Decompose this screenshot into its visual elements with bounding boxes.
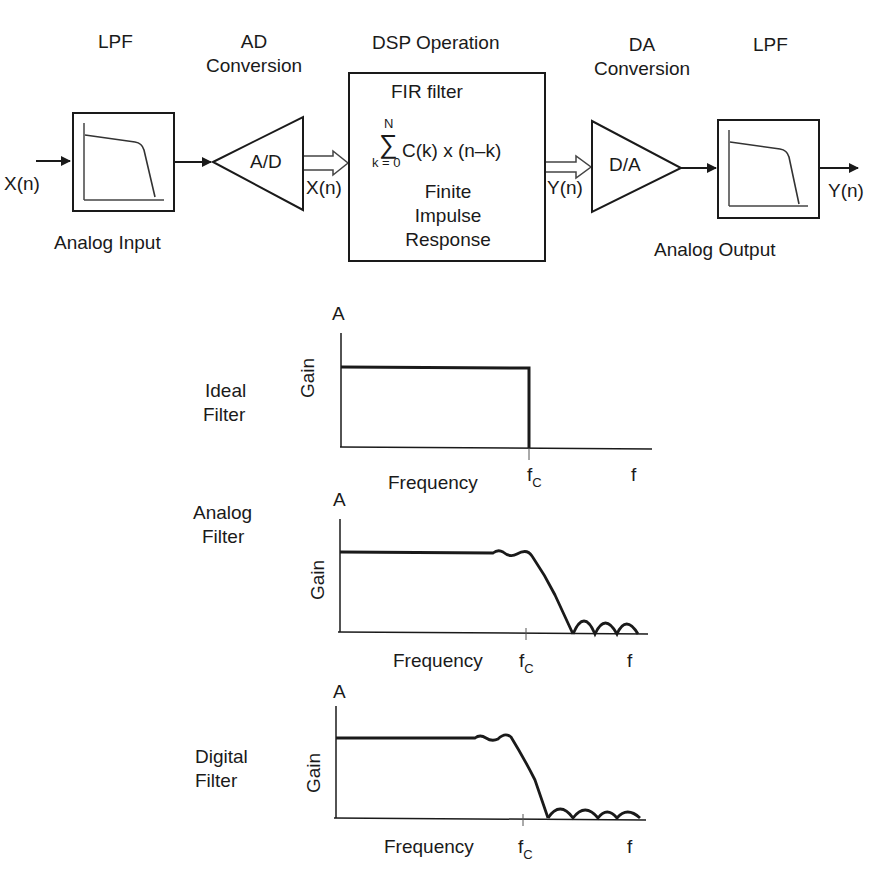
digital-fc-label: fC: [518, 836, 533, 858]
input-signal-label: X(n): [4, 173, 40, 195]
dsp-output-signal-label: Y(n): [547, 177, 583, 199]
analog-filter-chart: [338, 519, 648, 640]
output-signal-label: Y(n): [828, 180, 864, 202]
adc-block-label: A/D: [250, 151, 282, 173]
dsp-title: DSP Operation: [372, 32, 499, 54]
digital-filter-chart: [334, 706, 646, 826]
fir-desc-line1: Finite: [398, 181, 498, 203]
digital-y-axis-top: A: [333, 681, 346, 703]
analog-input-caption: Analog Input: [54, 232, 161, 254]
analog-y-axis-top: A: [333, 489, 346, 511]
ideal-gain-label: Gain: [297, 358, 319, 398]
adc-title-line1: AD: [204, 31, 304, 53]
digital-f-label: f: [627, 836, 632, 858]
digital-filter-label-line2: Filter: [195, 770, 237, 792]
ideal-filter-chart: [340, 333, 652, 460]
analog-filter-label-line2: Filter: [202, 526, 244, 548]
analog-output-caption: Analog Output: [654, 239, 775, 261]
diagram-graphics: [0, 0, 890, 882]
analog-f-label: f: [627, 650, 632, 672]
lpf-response-icon: [84, 123, 164, 200]
dac-block-label: D/A: [609, 154, 641, 176]
ideal-f-label: f: [631, 464, 636, 486]
lpf-output-title: LPF: [753, 34, 788, 56]
adc-to-dsp-hollow-arrow: [304, 151, 348, 175]
lpf-output-block: [718, 120, 819, 218]
analog-frequency-label: Frequency: [393, 650, 483, 672]
digital-filter-label-line1: Digital: [195, 746, 248, 768]
digital-gain-label: Gain: [303, 753, 325, 793]
dsp-to-dac-hollow-arrow: [546, 156, 591, 178]
analog-fc-label: fC: [519, 650, 534, 672]
ideal-filter-label-line2: Filter: [203, 404, 245, 426]
ideal-frequency-label: Frequency: [388, 472, 478, 494]
sum-lower-limit: k = 0: [372, 156, 401, 171]
adc-output-signal-label: X(n): [306, 177, 342, 199]
digital-frequency-label: Frequency: [384, 836, 474, 858]
dac-title-line2: Conversion: [592, 58, 692, 80]
lpf-input-title: LPF: [98, 31, 133, 53]
fir-formula: C(k) x (n–k): [402, 140, 501, 162]
ideal-y-axis-top: A: [332, 303, 345, 325]
lpf-input-block: [73, 113, 174, 211]
fir-filter-title: FIR filter: [391, 81, 463, 103]
ideal-fc-label: fC: [527, 464, 542, 486]
analog-gain-label: Gain: [307, 560, 329, 600]
dac-title-line1: DA: [592, 34, 692, 56]
fir-desc-line3: Response: [398, 229, 498, 251]
fir-desc-line2: Impulse: [398, 205, 498, 227]
ideal-filter-label-line1: Ideal: [205, 380, 246, 402]
analog-filter-label-line1: Analog: [193, 502, 252, 524]
lpf-response-icon: [729, 130, 808, 206]
adc-title-line2: Conversion: [204, 55, 304, 77]
